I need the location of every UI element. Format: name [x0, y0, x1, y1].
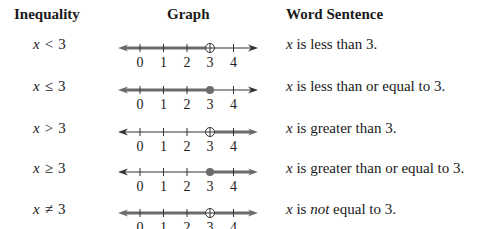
number-line: 01234 [114, 158, 264, 198]
variable: x [286, 120, 293, 136]
tick-label: 0 [137, 179, 144, 194]
variable: x [286, 78, 293, 94]
tick-label: 0 [137, 97, 144, 112]
tick-label: 2 [184, 179, 191, 194]
table-row: x>301234x is greater than 3. [0, 118, 496, 160]
tick-label: 0 [137, 139, 144, 154]
tick-label: 1 [160, 179, 167, 194]
number-line: 01234 [114, 199, 264, 229]
tick-label: 2 [184, 220, 191, 229]
sentence-text: is greater than or equal to 3. [293, 160, 465, 176]
tick-label: 2 [184, 55, 191, 70]
variable: x [33, 201, 40, 217]
operator: ≠ [45, 201, 53, 217]
value: 3 [58, 78, 66, 94]
sentence-text: is greater than 3. [293, 120, 397, 136]
value: 3 [58, 160, 66, 176]
operator: > [45, 120, 53, 136]
inequality-expression: x<3 [33, 36, 66, 53]
table-row: x≥301234x is greater than or equal to 3. [0, 158, 496, 200]
variable: x [33, 36, 40, 52]
tick-label: 3 [207, 97, 214, 112]
operator: < [45, 36, 53, 52]
operator: ≥ [45, 160, 53, 176]
tick-label: 3 [207, 220, 214, 229]
word-sentence: x is greater than 3. [286, 120, 396, 137]
header-word-sentence: Word Sentence [286, 6, 383, 23]
value: 3 [58, 36, 66, 52]
number-line: 01234 [114, 118, 264, 158]
closed-circle-icon [206, 168, 214, 176]
sentence-text: is [293, 201, 311, 217]
inequality-expression: x≤3 [33, 78, 65, 95]
sentence-text: is less than or equal to 3. [293, 78, 445, 94]
variable: x [286, 160, 293, 176]
tick-label: 1 [160, 220, 167, 229]
variable: x [33, 120, 40, 136]
tick-label: 4 [230, 55, 237, 70]
inequality-expression: x≠3 [33, 201, 65, 218]
tick-label: 4 [230, 139, 237, 154]
number-line-graph: 01234 [114, 34, 264, 74]
tick-label: 0 [137, 55, 144, 70]
value: 3 [58, 201, 66, 217]
inequality-expression: x>3 [33, 120, 66, 137]
tick-label: 3 [207, 179, 214, 194]
number-line: 01234 [114, 34, 264, 74]
word-sentence: x is not equal to 3. [286, 201, 396, 218]
number-line: 01234 [114, 76, 264, 116]
word-sentence: x is less than or equal to 3. [286, 78, 445, 95]
header-graph: Graph [167, 6, 210, 23]
number-line-graph: 01234 [114, 76, 264, 116]
tick-label: 0 [137, 220, 144, 229]
number-line-graph: 01234 [114, 158, 264, 198]
number-line-graph: 01234 [114, 118, 264, 158]
tick-label: 4 [230, 220, 237, 229]
tick-label: 4 [230, 97, 237, 112]
tick-label: 3 [207, 55, 214, 70]
tick-label: 1 [160, 139, 167, 154]
table-row: x<301234x is less than 3. [0, 34, 496, 76]
value: 3 [58, 120, 66, 136]
tick-label: 2 [184, 139, 191, 154]
sentence-text-end: equal to 3. [329, 201, 396, 217]
variable: x [286, 201, 293, 217]
variable: x [286, 36, 293, 52]
header-inequality: Inequality [14, 6, 80, 23]
closed-circle-icon [206, 86, 214, 94]
tick-label: 1 [160, 97, 167, 112]
number-line-graph: 01234 [114, 199, 264, 229]
table-row: x≤301234x is less than or equal to 3. [0, 76, 496, 118]
table-row: x≠301234x is not equal to 3. [0, 199, 496, 229]
variable: x [33, 78, 40, 94]
word-sentence: x is greater than or equal to 3. [286, 160, 464, 177]
operator: ≤ [45, 78, 53, 94]
sentence-emphasis: not [310, 201, 329, 217]
variable: x [33, 160, 40, 176]
sentence-text: is less than 3. [293, 36, 378, 52]
tick-label: 3 [207, 139, 214, 154]
tick-label: 4 [230, 179, 237, 194]
inequality-expression: x≥3 [33, 160, 65, 177]
word-sentence: x is less than 3. [286, 36, 377, 53]
tick-label: 1 [160, 55, 167, 70]
tick-label: 2 [184, 97, 191, 112]
